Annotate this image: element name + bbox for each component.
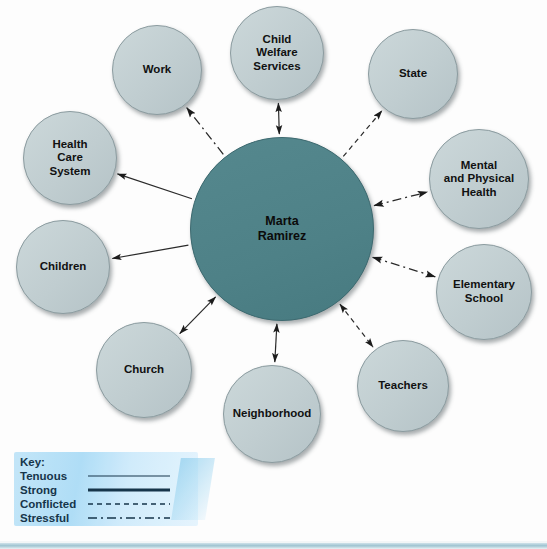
edge-center-to-mental-and-physical-health — [374, 192, 428, 206]
legend-item-line-sample — [86, 471, 174, 481]
legend-item-conflicted: Conflicted — [20, 497, 198, 511]
node-elementary-school[interactable]: ElementarySchool — [436, 244, 532, 340]
edge-center-to-children — [112, 245, 188, 258]
node-label-line: Health — [45, 138, 96, 152]
node-neighborhood[interactable]: Neighborhood — [223, 365, 321, 463]
node-label-line: State — [394, 67, 432, 81]
node-label-line: Children — [35, 260, 92, 274]
node-label-line: School — [448, 292, 520, 306]
node-children[interactable]: Children — [16, 220, 110, 314]
legend-item-label: Strong — [20, 484, 86, 496]
node-label-line: Neighborhood — [228, 407, 317, 421]
node-label-work: Work — [138, 63, 177, 77]
edge-center-to-teachers — [340, 304, 373, 347]
node-label-elementary-school: ElementarySchool — [448, 278, 520, 305]
node-label-line: Work — [138, 63, 177, 77]
node-child-welfare-services[interactable]: ChildWelfareServices — [230, 6, 324, 100]
node-state[interactable]: State — [368, 29, 458, 119]
node-label-line: Health — [439, 186, 519, 200]
node-label-line: System — [45, 165, 96, 179]
legend-rows: TenuousStrongConflictedStressful — [20, 469, 198, 525]
edge-center-to-elementary-school — [373, 257, 436, 277]
node-label-state: State — [394, 67, 432, 81]
node-label-line: Church — [119, 363, 169, 377]
legend-item-stressful: Stressful — [20, 511, 198, 525]
legend-item-label: Conflicted — [20, 498, 86, 510]
node-label-church: Church — [119, 363, 169, 377]
node-center[interactable]: MartaRamirez — [190, 137, 374, 321]
node-label-line: Mental — [439, 159, 519, 173]
legend-title: Key: — [20, 456, 198, 468]
node-church[interactable]: Church — [96, 322, 192, 418]
node-work[interactable]: Work — [112, 25, 202, 115]
legend-item-label: Tenuous — [20, 470, 86, 482]
node-label-line: Ramirez — [253, 229, 312, 244]
legend-item-strong: Strong — [20, 483, 198, 497]
legend-item-label: Stressful — [20, 512, 86, 524]
node-label-line: Services — [248, 60, 305, 74]
scanned-page-bottom-bar — [0, 543, 547, 549]
node-label-neighborhood: Neighborhood — [228, 407, 317, 421]
node-health-care-system[interactable]: HealthCareSystem — [23, 111, 117, 205]
legend-item-line-sample — [86, 513, 174, 523]
edge-center-to-work — [187, 108, 224, 155]
edge-center-to-health-care-system — [117, 174, 191, 199]
node-mental-and-physical-health[interactable]: Mentaland PhysicalHealth — [429, 129, 529, 229]
node-label-line: Care — [45, 151, 96, 165]
node-label-child-welfare-services: ChildWelfareServices — [248, 33, 305, 74]
legend-key: Key: TenuousStrongConflictedStressful — [14, 452, 198, 526]
legend-item-line-sample — [86, 499, 174, 509]
edge-center-to-neighborhood — [275, 324, 277, 362]
node-label-line: Child — [248, 33, 305, 47]
node-label-children: Children — [35, 260, 92, 274]
node-label-health-care-system: HealthCareSystem — [45, 138, 96, 179]
node-label-line: and Physical — [439, 172, 519, 186]
node-teachers[interactable]: Teachers — [357, 340, 449, 432]
node-label-line: Elementary — [448, 278, 520, 292]
node-label-line: Marta — [253, 214, 312, 229]
node-label-mental-and-physical-health: Mentaland PhysicalHealth — [439, 159, 519, 200]
node-label-line: Welfare — [248, 46, 305, 60]
edge-center-to-church — [180, 297, 216, 334]
node-label-line: Teachers — [373, 379, 433, 393]
edge-center-to-child-welfare-services — [278, 103, 279, 134]
legend-item-line-sample — [86, 485, 174, 495]
node-label-center: MartaRamirez — [253, 214, 312, 244]
node-label-teachers: Teachers — [373, 379, 433, 393]
edge-center-to-state — [343, 111, 382, 157]
legend-item-tenuous: Tenuous — [20, 469, 198, 483]
